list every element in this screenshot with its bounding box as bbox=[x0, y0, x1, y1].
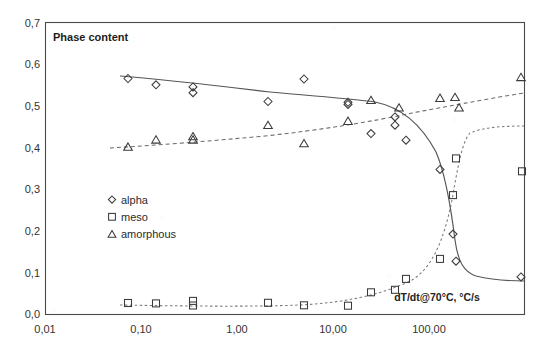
data-point-diamond bbox=[391, 121, 399, 129]
legend-label: meso bbox=[121, 211, 148, 223]
data-point-diamond bbox=[152, 81, 160, 89]
data-point-square bbox=[437, 255, 444, 262]
data-point-diamond bbox=[517, 273, 525, 281]
legend-item-amorphous[interactable]: amorphous bbox=[108, 228, 176, 240]
meso-data-points bbox=[125, 155, 526, 309]
chart-legend: alpha meso amorphous bbox=[108, 194, 176, 240]
alpha-data-points bbox=[124, 75, 525, 281]
meso-trend-curve bbox=[120, 126, 524, 306]
y-axis-tick-labels: 0,7 0,6 0,5 0,4 0,3 0,2 0,1 0,0 bbox=[25, 17, 40, 321]
diamond-icon bbox=[108, 196, 115, 203]
y-tick-label: 0,5 bbox=[25, 100, 40, 112]
data-point-diamond bbox=[367, 130, 375, 138]
x-tick-label: 1,00 bbox=[226, 323, 247, 335]
phase-content-chart: 0,7 0,6 0,5 0,4 0,3 0,2 0,1 0,0 0,01 0,1… bbox=[0, 0, 540, 353]
data-point-square bbox=[453, 155, 460, 162]
alpha-trend-curve bbox=[120, 76, 524, 281]
data-point-square bbox=[265, 299, 272, 306]
x-tick-label: 0,10 bbox=[130, 323, 151, 335]
legend-item-alpha[interactable]: alpha bbox=[108, 194, 148, 206]
data-point-triangle bbox=[264, 121, 273, 128]
plot-title: Phase content bbox=[53, 31, 129, 43]
y-tick-label: 0,2 bbox=[25, 225, 40, 237]
y-tick-label: 0,1 bbox=[25, 267, 40, 279]
y-tick-label: 0,0 bbox=[25, 308, 40, 320]
x-tick-label: 100,00 bbox=[412, 323, 446, 335]
data-point-triangle bbox=[436, 94, 445, 101]
legend-label: amorphous bbox=[121, 228, 177, 240]
data-point-triangle bbox=[152, 136, 161, 143]
data-point-triangle bbox=[300, 140, 309, 147]
triangle-icon bbox=[108, 231, 116, 238]
legend-item-meso[interactable]: meso bbox=[109, 211, 148, 223]
data-point-diamond bbox=[124, 75, 132, 83]
data-point-diamond bbox=[264, 98, 272, 106]
y-tick-label: 0,6 bbox=[25, 58, 40, 70]
x-tick-label: 0,01 bbox=[34, 323, 55, 335]
plot-frame bbox=[46, 23, 525, 315]
data-point-diamond bbox=[189, 83, 197, 91]
x-axis-title: dT/dt@70°C, °C/s bbox=[394, 291, 480, 303]
data-point-diamond bbox=[449, 230, 457, 238]
legend-label: alpha bbox=[121, 194, 149, 206]
amorphous-data-points bbox=[124, 73, 526, 150]
chart-root: 0,7 0,6 0,5 0,4 0,3 0,2 0,1 0,0 0,01 0,1… bbox=[0, 0, 540, 353]
x-axis-tick-labels: 0,01 0,10 1,00 10,00 100,00 bbox=[34, 323, 446, 335]
data-point-triangle bbox=[451, 93, 460, 100]
y-tick-label: 0,7 bbox=[25, 17, 40, 29]
data-point-square bbox=[190, 297, 197, 304]
data-point-diamond bbox=[189, 89, 197, 97]
data-point-square bbox=[345, 302, 352, 309]
y-tick-label: 0,4 bbox=[25, 142, 40, 154]
data-point-triangle bbox=[344, 117, 353, 124]
amorphous-trend-curve bbox=[110, 93, 524, 148]
data-point-diamond bbox=[402, 136, 410, 144]
data-point-diamond bbox=[300, 75, 308, 83]
x-tick-label: 10,00 bbox=[319, 323, 347, 335]
square-icon bbox=[109, 213, 116, 220]
y-tick-label: 0,3 bbox=[25, 183, 40, 195]
